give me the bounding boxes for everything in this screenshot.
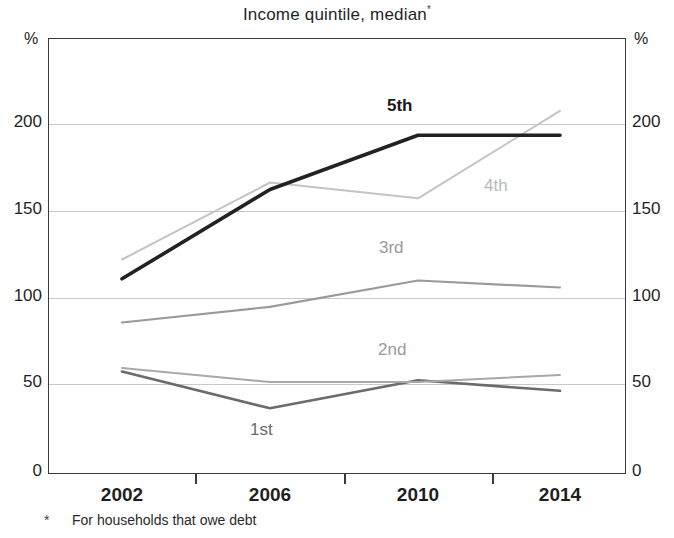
series-annotation-1st: 1st <box>250 420 273 440</box>
series-line-3rd <box>122 281 560 323</box>
series-line-1st <box>122 372 560 409</box>
series-annotation-4th: 4th <box>484 176 508 196</box>
series-annotation-3rd: 3rd <box>379 238 404 258</box>
series-annotation-2nd: 2nd <box>378 340 406 360</box>
footnote: *For households that owe debt <box>44 512 256 528</box>
series-annotation-5th: 5th <box>387 96 413 116</box>
chart-figure: Income quintile, median* % % 200 150 100… <box>0 0 674 538</box>
footnote-marker: * <box>44 512 72 528</box>
series-lines <box>0 0 674 538</box>
footnote-text: For households that owe debt <box>72 512 256 528</box>
series-line-2nd <box>122 368 560 382</box>
series-line-5th <box>122 135 560 278</box>
